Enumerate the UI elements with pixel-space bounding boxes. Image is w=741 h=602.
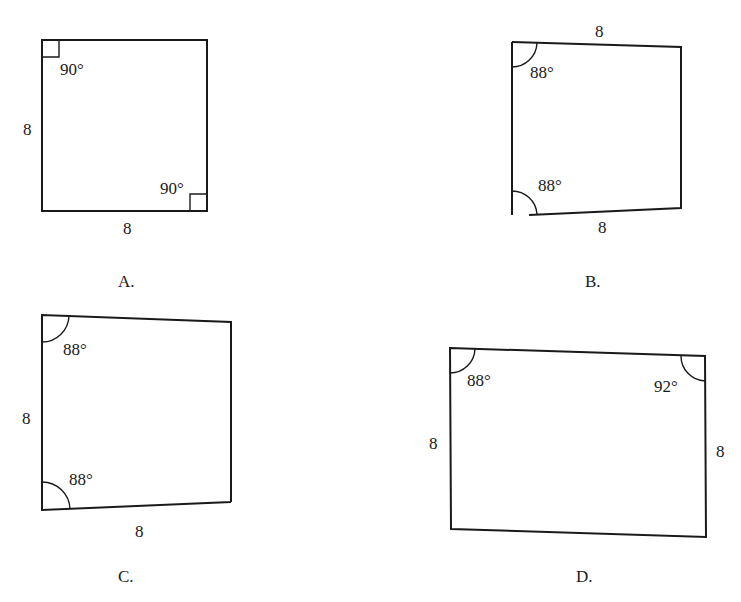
figure-a-angle-bottom-right: 90°: [160, 179, 184, 198]
figure-c-angle-top-left: 88°: [63, 340, 87, 359]
figure-d-side-left: 8: [429, 434, 438, 453]
figure-b-angle-bottom-left: 88°: [538, 176, 562, 195]
figure-a-side-left: 8: [23, 120, 32, 139]
figure-c-side-bottom: 8: [135, 522, 144, 541]
figure-d: 88° 92° 8 8 D.: [429, 348, 725, 586]
option-label-c: C.: [118, 567, 134, 586]
option-label-d: D.: [576, 567, 593, 586]
figure-c: 88° 88° 8 8 C.: [22, 315, 231, 586]
right-angle-mark-top-left-icon: [42, 40, 59, 57]
right-angle-mark-bottom-right-icon: [190, 194, 207, 211]
angle-arc-bottom-left-icon: [42, 482, 70, 509]
figure-b-angle-top-left: 88°: [530, 63, 554, 82]
figure-c-side-left: 8: [22, 409, 31, 428]
figure-a: 90° 90° 8 8 A.: [23, 40, 207, 291]
angle-arc-top-right-icon: [681, 356, 705, 381]
diagram-canvas: 90° 90° 8 8 A. 88° 88° 8 8 B. 88° 88° 8 …: [0, 0, 741, 602]
figure-d-angle-top-right: 92°: [654, 377, 678, 396]
figure-d-side-right: 8: [716, 442, 725, 461]
angle-arc-top-left-icon: [450, 349, 475, 373]
option-label-a: A.: [118, 272, 135, 291]
figure-c-angle-bottom-left: 88°: [69, 470, 93, 489]
angle-arc-top-left-icon: [42, 316, 69, 342]
figure-b-side-top: 8: [595, 22, 604, 41]
figure-d-angle-top-left: 88°: [467, 371, 491, 390]
figure-b: 88° 88° 8 8 B.: [512, 22, 681, 291]
figure-b-side-bottom: 8: [598, 218, 607, 237]
option-label-b: B.: [585, 272, 601, 291]
figure-a-side-bottom: 8: [123, 219, 132, 238]
angle-arc-bottom-left-icon: [512, 191, 537, 214]
figure-a-angle-top-left: 90°: [60, 60, 84, 79]
